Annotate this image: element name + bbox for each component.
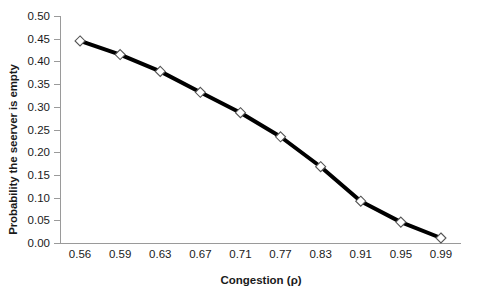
y-axis-tick bbox=[54, 198, 60, 199]
y-axis-tick-label: 0.45 bbox=[0, 33, 50, 45]
data-point-marker bbox=[356, 196, 366, 206]
x-axis-title: Congestion (ρ) bbox=[60, 274, 462, 286]
data-point-marker bbox=[396, 217, 406, 227]
x-axis-tick-label: 0.95 bbox=[379, 248, 423, 260]
data-point-marker bbox=[436, 233, 446, 243]
y-axis-tick-label: 0.15 bbox=[0, 169, 50, 181]
data-point-marker bbox=[235, 108, 245, 118]
x-axis-tick-label: 0.67 bbox=[178, 248, 222, 260]
y-axis-tick-label: 0.50 bbox=[0, 10, 50, 22]
y-axis-tick-label: 0.25 bbox=[0, 124, 50, 136]
y-axis-line bbox=[60, 16, 61, 244]
y-axis-tick bbox=[54, 16, 60, 17]
x-axis-tick-label: 0.71 bbox=[218, 248, 262, 260]
y-axis-tick-label: 0.40 bbox=[0, 55, 50, 67]
y-axis-tick bbox=[54, 152, 60, 153]
series-line bbox=[80, 41, 441, 238]
data-point-marker bbox=[75, 36, 85, 46]
series-markers bbox=[75, 36, 446, 243]
y-axis-tick bbox=[54, 107, 60, 108]
x-axis-line bbox=[60, 243, 461, 244]
y-axis-tick bbox=[54, 61, 60, 62]
line-chart: Probability the seerver is empty Congest… bbox=[0, 0, 478, 299]
y-axis-tick-label: 0.30 bbox=[0, 101, 50, 113]
data-point-marker bbox=[155, 66, 165, 76]
y-axis-tick-label: 0.00 bbox=[0, 237, 50, 249]
x-axis-tick-label: 0.63 bbox=[138, 248, 182, 260]
y-axis-tick-label: 0.10 bbox=[0, 192, 50, 204]
x-axis-tick-label: 0.77 bbox=[259, 248, 303, 260]
y-axis-tick bbox=[54, 220, 60, 221]
y-axis-tick-label: 0.35 bbox=[0, 78, 50, 90]
y-axis-tick bbox=[54, 130, 60, 131]
x-axis-tick-label: 0.99 bbox=[419, 248, 463, 260]
y-axis-tick bbox=[54, 175, 60, 176]
data-point-marker bbox=[115, 50, 125, 60]
data-point-marker bbox=[276, 132, 286, 142]
x-axis-tick-label: 0.59 bbox=[98, 248, 142, 260]
y-axis-tick-label: 0.20 bbox=[0, 146, 50, 158]
x-axis-tick-label: 0.56 bbox=[58, 248, 102, 260]
y-axis-tick bbox=[54, 84, 60, 85]
y-axis-tick-label: 0.05 bbox=[0, 214, 50, 226]
x-axis-tick-label: 0.91 bbox=[339, 248, 383, 260]
data-point-marker bbox=[316, 162, 326, 172]
x-axis-tick-label: 0.83 bbox=[299, 248, 343, 260]
data-point-marker bbox=[195, 87, 205, 97]
y-axis-tick bbox=[54, 39, 60, 40]
y-axis-tick bbox=[54, 243, 60, 244]
